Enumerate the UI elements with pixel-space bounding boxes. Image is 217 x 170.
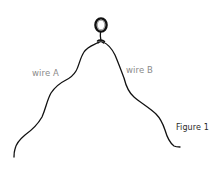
wire-b-label: wire B: [126, 66, 153, 75]
wire-b-path: [103, 42, 180, 147]
wire-a-path: [14, 42, 99, 157]
figure-canvas: wire A wire B Figure 1: [0, 0, 217, 170]
wire-a-label: wire A: [32, 69, 59, 78]
knot-icon: [98, 32, 105, 44]
figure-caption: Figure 1: [176, 124, 209, 132]
wire-diagram: [0, 0, 217, 170]
ring-icon: [95, 18, 106, 31]
